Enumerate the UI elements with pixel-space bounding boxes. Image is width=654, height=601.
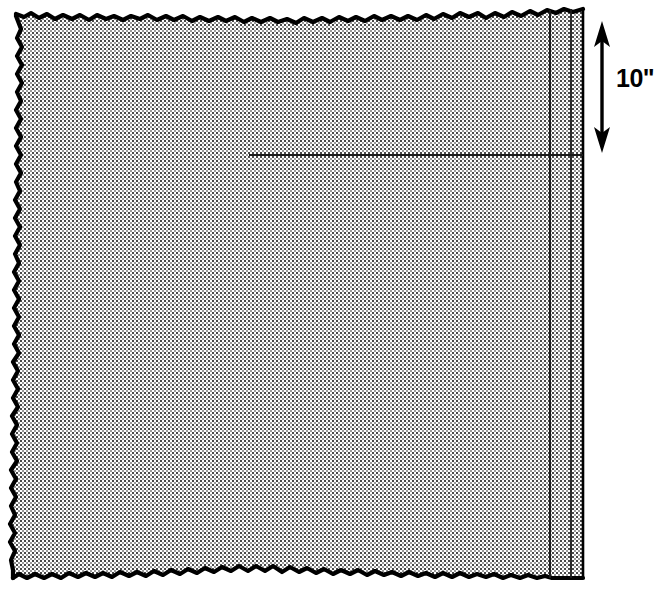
double-headed-arrow [594, 21, 610, 153]
dimension-label-10in: 10" [616, 66, 654, 91]
